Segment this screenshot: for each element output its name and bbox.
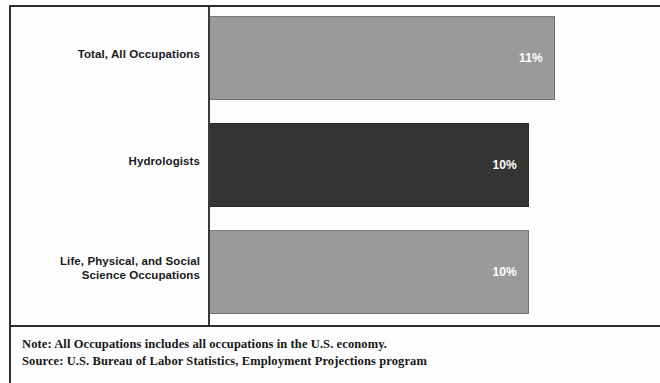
chart-figure: Total, All Occupations 11% Hydrologists … — [0, 0, 660, 383]
source-text: Source: U.S. Bureau of Labor Statistics,… — [22, 353, 427, 370]
footer-separator-line — [9, 325, 660, 327]
category-label-line2: Science Occupations — [0, 268, 200, 282]
bar-value-label: 11% — [519, 51, 554, 65]
bar: 10% — [210, 123, 529, 207]
bar-row: Total, All Occupations 11% — [11, 16, 660, 100]
category-label: Hydrologists — [0, 154, 200, 168]
footer-notes: Note: All Occupations includes all occup… — [22, 336, 427, 370]
note-text: Note: All Occupations includes all occup… — [22, 336, 427, 353]
category-label-line1: Total, All Occupations — [78, 48, 200, 60]
category-label: Life, Physical, and Social Science Occup… — [0, 254, 200, 282]
bar: 11% — [210, 16, 555, 100]
category-label-line1: Life, Physical, and Social — [60, 255, 200, 267]
bar: 10% — [210, 230, 529, 314]
bar-row: Life, Physical, and Social Science Occup… — [11, 230, 660, 314]
bar-row: Hydrologists 10% — [11, 123, 660, 207]
bar-value-label: 10% — [492, 158, 528, 172]
plot-area: Total, All Occupations 11% Hydrologists … — [11, 7, 660, 325]
category-label: Total, All Occupations — [0, 47, 200, 61]
bar-value-label: 10% — [492, 265, 528, 279]
category-label-line1: Hydrologists — [129, 155, 201, 167]
